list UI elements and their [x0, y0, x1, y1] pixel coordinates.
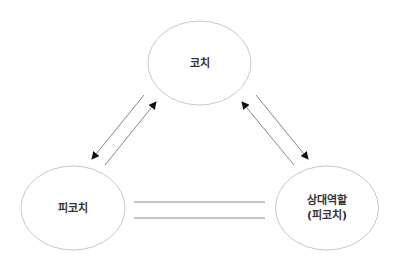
- arrow-coach-to-counterpart: [256, 95, 308, 159]
- coachee-label: 피코치: [58, 201, 88, 216]
- counterpart-label-line1: 상대역할: [307, 193, 347, 208]
- counterpart-label: 상대역할 (피코치): [307, 193, 347, 223]
- coach-label-text: 코치: [190, 57, 210, 70]
- coachee-label-text: 피코치: [58, 202, 88, 215]
- triad-diagram: [0, 0, 400, 266]
- arrow-counterpart-to-coach: [242, 102, 294, 165]
- coach-label: 코치: [190, 56, 210, 71]
- counterpart-label-line2: (피코치): [307, 208, 347, 223]
